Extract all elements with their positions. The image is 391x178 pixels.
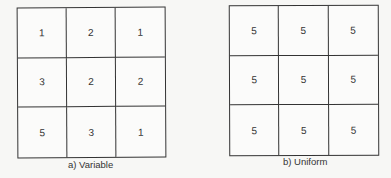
grid-cell: 5: [329, 105, 379, 155]
grid-cell: 1: [116, 107, 165, 157]
grid-cell: 5: [230, 105, 280, 155]
variable-grid: 1 2 1 3 2 2 5 3 1: [17, 7, 167, 159]
grid-cell: 1: [18, 8, 67, 58]
grid-cell: 2: [116, 57, 165, 107]
variable-caption: a) Variable: [68, 159, 113, 170]
grid-cell: 5: [279, 105, 329, 155]
uniform-grid: 5 5 5 5 5 5 5 5 5: [229, 5, 380, 157]
grid-cell: 5: [279, 56, 329, 106]
grid-cell: 3: [18, 58, 67, 108]
grid-cell: 5: [329, 55, 379, 105]
grid-cell: 5: [230, 6, 280, 56]
grid-cell: 5: [328, 6, 378, 56]
grid-cell: 2: [67, 8, 116, 58]
uniform-caption: b) Uniform: [283, 156, 327, 167]
grid-cell: 1: [116, 8, 165, 58]
grid-cell: 5: [18, 107, 67, 157]
grid-cell: 2: [67, 58, 116, 108]
grid-cell: 5: [279, 6, 329, 56]
grid-cell: 5: [230, 56, 280, 106]
grid-cell: 3: [67, 107, 116, 157]
